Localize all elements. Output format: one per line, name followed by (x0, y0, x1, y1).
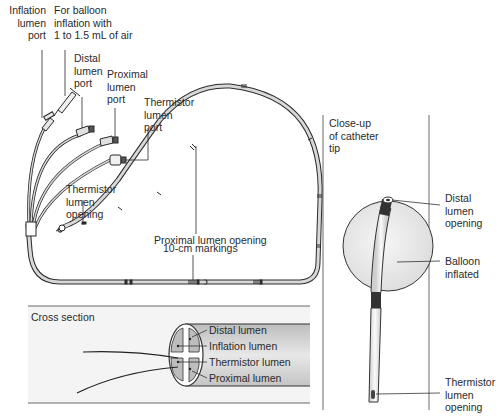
label-proximal-lumen-port: Proximal lumen port (107, 68, 148, 106)
label-distal-lumen-opening: Distal lumen opening (445, 192, 482, 230)
label-inflation-lumen-port: Inflation lumen port (4, 4, 46, 42)
label-inflation-lumen: Inflation lumen (209, 340, 277, 353)
label-thermistor-lumen-port: Thermistor lumen port (144, 96, 194, 134)
label-thermistor-lumen: Thermistor lumen (209, 356, 291, 369)
label-distal-lumen: Distal lumen (209, 324, 267, 337)
label-balloon-inflation: For balloon inflation with 1 to 1.5 mL o… (54, 4, 132, 42)
label-10cm-markings: 10-cm markings (163, 242, 238, 255)
closeup-panel (323, 115, 440, 410)
cross-section-title: Cross section (31, 311, 95, 324)
label-closeup-thermistor-opening: Thermistor lumen opening (445, 376, 495, 414)
catheter-tip (59, 225, 65, 231)
label-proximal-lumen: Proximal lumen (209, 372, 281, 385)
label-distal-lumen-port: Distal lumen port (74, 52, 103, 90)
label-balloon-inflated: Balloon inflated (445, 255, 480, 280)
catheter-hub (26, 222, 36, 236)
label-thermistor-lumen-opening: Thermistor lumen opening (66, 183, 116, 221)
closeup-title: Close-up of catheter tip (329, 117, 379, 155)
